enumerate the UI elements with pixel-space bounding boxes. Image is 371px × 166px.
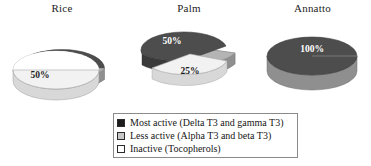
chart-annatto: Annatto 100%	[254, 0, 371, 112]
chart-title-rice: Rice	[0, 0, 124, 16]
legend-swatch-most-active	[117, 119, 125, 127]
legend-row: Inactive (Tocopherols)	[117, 142, 294, 155]
legend-label-less-active: Less active (Alpha T3 and beta T3)	[130, 130, 271, 141]
legend-label-inactive: Inactive (Tocopherols)	[130, 143, 221, 154]
legend-row: Less active (Alpha T3 and beta T3)	[117, 129, 294, 142]
chart-palm: Palm 50% 25%	[128, 0, 250, 112]
pie-palm: 50% 25%	[128, 16, 250, 112]
pie-palm-svg: 50% 25%	[128, 16, 250, 112]
slice-label-most-active: 50%	[163, 36, 182, 46]
slice-label-inactive: 25%	[181, 66, 200, 76]
legend-swatch-less-active	[117, 132, 125, 140]
legend-label-most-active: Most active (Delta T3 and gamma T3)	[130, 117, 283, 128]
pie-rice-svg: 35% 50%	[0, 16, 124, 112]
chart-rice: Rice 35% 50%	[0, 0, 124, 112]
chart-title-annatto: Annatto	[254, 0, 371, 16]
chart-title-palm: Palm	[128, 0, 250, 16]
slice-label-most-active: 35%	[54, 40, 73, 50]
pie-charts-row: Rice 35% 50%	[0, 0, 371, 112]
slice-label-inactive: 50%	[31, 70, 50, 80]
slice-label-most-active: 100%	[300, 44, 324, 54]
legend-swatch-inactive	[117, 145, 125, 153]
pie-annatto: 100%	[254, 16, 371, 112]
pie-annatto-svg: 100%	[254, 16, 371, 112]
legend: Most active (Delta T3 and gamma T3) Less…	[113, 113, 298, 158]
legend-row: Most active (Delta T3 and gamma T3)	[117, 116, 294, 129]
pie-rice: 35% 50%	[0, 16, 124, 112]
